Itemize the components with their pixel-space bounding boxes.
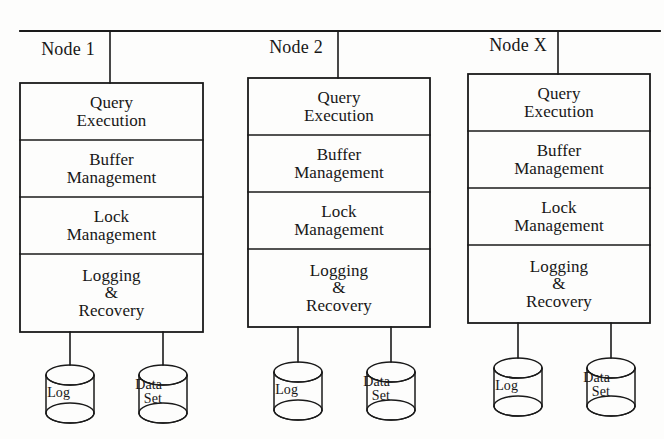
layer-label-line: & <box>20 284 203 301</box>
layer-label-line: Query <box>248 89 430 106</box>
layer-label-line: Lock <box>248 203 430 220</box>
layer-query-execution-node-x: QueryExecution <box>468 74 650 131</box>
layer-label-logging-recovery: Logging&Recovery <box>248 262 430 314</box>
cylinder-lid-arc <box>139 375 187 385</box>
layer-buffer-management-node-1: BufferManagement <box>20 140 203 197</box>
layer-lock-management-node-x: LockManagement <box>468 188 650 245</box>
layer-logging-recovery-node-2: Logging&Recovery <box>248 249 430 327</box>
cylinder-bottom-arc <box>367 410 415 420</box>
layer-label-lock-management: LockManagement <box>468 199 650 234</box>
cylinder-data-set-store-node-2 <box>367 362 415 420</box>
layer-label-line: Management <box>248 221 430 238</box>
layer-label-line: Recovery <box>20 302 203 319</box>
layer-label-line: Management <box>20 169 203 186</box>
layer-label-logging-recovery: Logging&Recovery <box>468 258 650 310</box>
layer-label-line: Execution <box>20 112 203 129</box>
cylinder-log-store-node-x <box>494 358 542 416</box>
cylinder-data-set-store-node-1 <box>139 365 187 423</box>
layer-label-line: & <box>468 275 650 292</box>
cylinder-bottom-arc <box>46 413 94 423</box>
layer-buffer-management-node-x: BufferManagement <box>468 131 650 188</box>
cylinder-bottom-arc <box>139 413 187 423</box>
layer-label-line: Lock <box>20 208 203 225</box>
layer-label-line: Buffer <box>248 146 430 163</box>
layer-label-logging-recovery: Logging&Recovery <box>20 267 203 319</box>
layer-label-query-execution: QueryExecution <box>248 89 430 124</box>
layer-label-line: Buffer <box>20 151 203 168</box>
layer-label-line: Execution <box>248 107 430 124</box>
cylinder-bottom-arc <box>587 406 635 416</box>
cylinder-bottom-arc <box>274 410 322 420</box>
cylinder-log-store-node-1 <box>46 365 94 423</box>
layer-label-line: Management <box>248 164 430 181</box>
layer-label-buffer-management: BufferManagement <box>20 151 203 186</box>
layer-label-lock-management: LockManagement <box>248 203 430 238</box>
layer-label-line: Management <box>468 160 650 177</box>
layer-label-line: & <box>248 279 430 296</box>
layer-label-line: Management <box>20 226 203 243</box>
layer-label-buffer-management: BufferManagement <box>468 142 650 177</box>
cylinder-lid-arc <box>367 372 415 382</box>
layer-buffer-management-node-2: BufferManagement <box>248 135 430 192</box>
layer-lock-management-node-1: LockManagement <box>20 197 203 254</box>
architecture-diagram: Node 1QueryExecutionBufferManagementLock… <box>0 0 664 439</box>
layer-query-execution-node-1: QueryExecution <box>20 83 203 140</box>
layer-label-query-execution: QueryExecution <box>20 94 203 129</box>
cylinder-data-set-store-node-x <box>587 358 635 416</box>
cylinder-lid-arc <box>587 368 635 378</box>
layer-label-lock-management: LockManagement <box>20 208 203 243</box>
cylinder-log-store-node-2 <box>274 362 322 420</box>
cylinder-lid-arc <box>494 368 542 378</box>
layer-label-buffer-management: BufferManagement <box>248 146 430 181</box>
layer-label-line: Query <box>20 94 203 111</box>
layer-label-line: Logging <box>248 262 430 279</box>
layer-label-line: Lock <box>468 199 650 216</box>
layer-label-line: Buffer <box>468 142 650 159</box>
layer-label-line: Query <box>468 85 650 102</box>
layer-logging-recovery-node-x: Logging&Recovery <box>468 245 650 323</box>
cylinder-bottom-arc <box>494 406 542 416</box>
layer-label-query-execution: QueryExecution <box>468 85 650 120</box>
layer-lock-management-node-2: LockManagement <box>248 192 430 249</box>
cylinder-lid-arc <box>46 375 94 385</box>
layer-label-line: Execution <box>468 103 650 120</box>
layer-logging-recovery-node-1: Logging&Recovery <box>20 254 203 332</box>
layer-label-line: Recovery <box>468 293 650 310</box>
layer-query-execution-node-2: QueryExecution <box>248 78 430 135</box>
layer-label-line: Recovery <box>248 297 430 314</box>
layer-label-line: Logging <box>20 267 203 284</box>
layer-label-line: Logging <box>468 258 650 275</box>
cylinder-lid-arc <box>274 372 322 382</box>
layer-label-line: Management <box>468 217 650 234</box>
